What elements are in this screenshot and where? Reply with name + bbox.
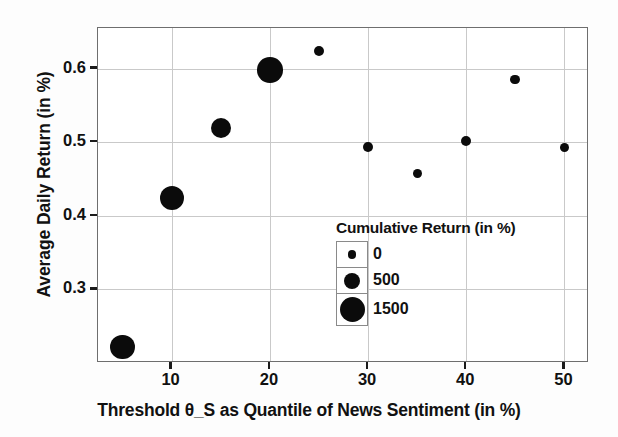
data-point	[314, 46, 324, 56]
data-point	[461, 136, 471, 146]
y-tick-label: 0.6	[48, 58, 86, 77]
scatter-chart-figure: Average Daily Return (in %) Threshold θ_…	[0, 0, 618, 437]
x-tick-label: 10	[148, 370, 194, 389]
legend-label-list: 05001500	[373, 241, 409, 324]
data-point	[363, 142, 373, 152]
x-tick-label: 50	[541, 370, 587, 389]
x-tick-mark	[366, 362, 368, 369]
legend-marker-swatch	[344, 273, 360, 289]
legend-label: 500	[373, 267, 409, 293]
data-point	[510, 75, 520, 85]
x-tick-label: 40	[442, 370, 488, 389]
data-point	[160, 186, 184, 210]
legend-title: Cumulative Return (in %)	[336, 219, 516, 237]
legend-body: 05001500	[336, 241, 516, 326]
legend-key-cell	[337, 268, 367, 294]
y-tick-mark	[90, 214, 97, 216]
data-point	[211, 118, 232, 139]
legend-marker-swatch	[348, 250, 356, 258]
y-tick-mark	[90, 66, 97, 68]
y-tick-label: 0.4	[48, 205, 86, 224]
x-tick-mark	[562, 362, 564, 369]
y-tick-label: 0.3	[48, 278, 86, 297]
x-tick-mark	[464, 362, 466, 369]
data-point	[257, 57, 283, 83]
x-tick-label: 20	[246, 370, 292, 389]
y-tick-label: 0.5	[48, 131, 86, 150]
x-tick-mark	[169, 362, 171, 369]
x-tick-mark	[268, 362, 270, 369]
legend-key-cell	[337, 294, 367, 325]
data-point	[110, 335, 134, 359]
data-point	[560, 143, 570, 153]
legend-marker-swatch	[340, 297, 365, 322]
data-point	[413, 169, 422, 178]
y-tick-mark	[90, 287, 97, 289]
x-tick-label: 30	[344, 370, 390, 389]
legend-key-cell	[337, 242, 367, 268]
legend-key-box	[336, 241, 368, 326]
size-legend: Cumulative Return (in %) 05001500	[336, 219, 516, 326]
legend-label: 0	[373, 241, 409, 267]
x-axis-title: Threshold θ_S as Quantile of News Sentim…	[0, 400, 618, 421]
y-tick-mark	[90, 140, 97, 142]
gridline-vertical	[564, 28, 565, 361]
legend-label: 1500	[373, 293, 409, 324]
